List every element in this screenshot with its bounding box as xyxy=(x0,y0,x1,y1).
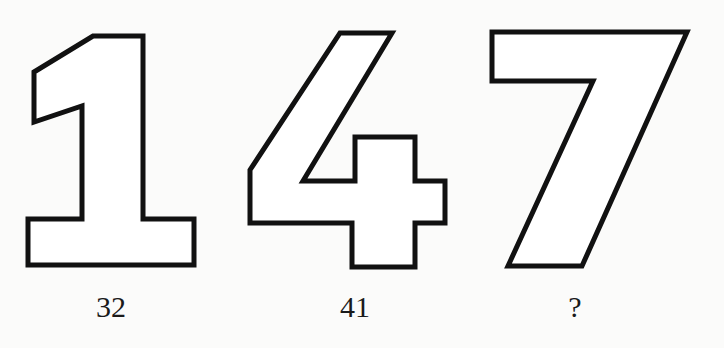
digit-seven-outline xyxy=(492,32,687,266)
figure-four-label: 41 xyxy=(295,292,415,322)
figure-seven-label: ? xyxy=(515,292,635,322)
puzzle-figure: 32 41 ? xyxy=(0,0,724,348)
digit-four-outline xyxy=(250,33,445,267)
digit-one-outline xyxy=(28,36,194,265)
figure-one-label: 32 xyxy=(51,292,171,322)
